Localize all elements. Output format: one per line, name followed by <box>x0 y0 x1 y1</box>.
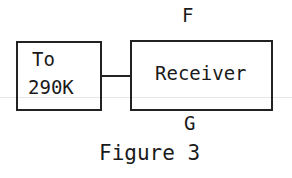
source-line-2: 290K <box>28 77 74 97</box>
source-block: To 290K <box>16 41 102 111</box>
source-line-1: To <box>32 49 55 69</box>
figure-caption: Figure 3 <box>99 143 200 163</box>
label-g: G <box>184 113 195 133</box>
connector-line <box>101 75 131 77</box>
receiver-block: Receiver <box>130 40 273 111</box>
label-f: F <box>182 5 193 25</box>
receiver-label: Receiver <box>155 63 247 83</box>
